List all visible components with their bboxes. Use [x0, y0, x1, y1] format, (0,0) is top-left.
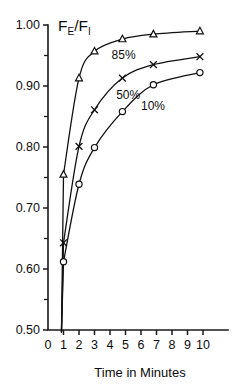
data-point-triangle [76, 74, 83, 81]
x-tick-label: 5 [122, 338, 129, 352]
line-chart: 0.500.600.700.800.901.00 012345678910 85… [0, 0, 240, 385]
x-axis-tick-labels: 012345678910 [45, 338, 210, 352]
series-label-85pct: 85% [112, 48, 136, 62]
data-point-circle [76, 181, 82, 187]
data-series-lines [61, 31, 199, 332]
x-axis-title: Time in Minutes [94, 365, 186, 380]
data-point-circle [150, 82, 156, 88]
x-tick-label: 3 [91, 338, 98, 352]
axis-ticks [43, 25, 203, 335]
data-point-circle [119, 109, 125, 115]
data-point-circle [91, 145, 97, 151]
y-tick-label: 0.90 [16, 79, 40, 93]
data-point-x [119, 75, 126, 82]
data-point-triangle [60, 171, 67, 178]
series-label-50pct: 50% [116, 88, 140, 102]
data-point-x [91, 106, 98, 113]
x-tick-label: 10 [196, 338, 210, 352]
y-tick-label: 1.00 [16, 18, 40, 32]
data-point-circle [197, 69, 203, 75]
x-tick-label: 7 [153, 338, 160, 352]
data-point-triangle [91, 47, 98, 54]
x-tick-label: 1 [60, 338, 67, 352]
y-tick-label: 0.80 [16, 140, 40, 154]
x-tick-label: 6 [138, 338, 145, 352]
axis-titles: Time in MinutesFE/FI [58, 17, 186, 380]
y-axis-title: FE/FI [58, 17, 91, 37]
x-tick-label: 9 [184, 338, 191, 352]
y-tick-label: 0.60 [16, 262, 40, 276]
y-axis-tick-labels: 0.500.600.700.800.901.00 [16, 18, 40, 337]
data-point-circle [60, 259, 66, 265]
y-tick-label: 0.50 [16, 323, 40, 337]
y-tick-label: 0.70 [16, 201, 40, 215]
x-tick-label: 2 [76, 338, 83, 352]
series-line-50pct [64, 57, 200, 243]
chart-container: 0.500.600.700.800.901.00 012345678910 85… [0, 0, 240, 385]
data-point-triangle [196, 27, 203, 34]
x-tick-label: 0 [45, 338, 52, 352]
data-point-markers [60, 27, 203, 264]
x-tick-label: 4 [107, 338, 114, 352]
series-label-10pct: 10% [141, 99, 165, 113]
x-tick-label: 8 [169, 338, 176, 352]
